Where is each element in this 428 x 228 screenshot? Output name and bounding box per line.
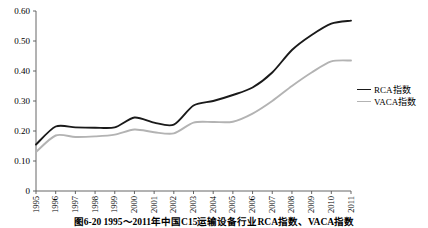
x-axis-label-1999: 1999: [110, 196, 119, 213]
figure-caption: 图6-20 1995～2011年中国C15运输设备行业RCA指数、VACA指数: [0, 214, 428, 228]
x-axis-label-2004: 2004: [209, 196, 218, 213]
x-axis-label-2007: 2007: [268, 196, 277, 213]
y-axis-label-4: 0.40: [0, 67, 30, 76]
y-axis-label-2: 0.20: [0, 127, 30, 136]
x-axis-label-2006: 2006: [248, 196, 257, 213]
y-axis-label-3: 0.30: [0, 97, 30, 106]
x-axis-label-2000: 2000: [130, 196, 139, 213]
figure-container: 00.100.200.300.400.500.60 19951996199719…: [0, 0, 428, 228]
legend-swatch-icon: [357, 89, 371, 90]
y-axis-label-1: 0.10: [0, 157, 30, 166]
x-axis-label-2005: 2005: [228, 196, 237, 213]
x-axis-label-1995: 1995: [32, 196, 41, 213]
x-axis-label-2009: 2009: [307, 196, 316, 213]
x-axis-label-1998: 1998: [91, 196, 100, 213]
legend-label: VACA指数: [374, 95, 416, 108]
x-axis-label-1997: 1997: [71, 196, 80, 213]
x-axis-label-2010: 2010: [327, 196, 336, 213]
x-axis-label-2003: 2003: [189, 196, 198, 213]
x-axis-label-2008: 2008: [287, 196, 296, 213]
y-axis-label-5: 0.50: [0, 37, 30, 46]
x-axis-label-1996: 1996: [51, 196, 60, 213]
axis-lines: [33, 11, 351, 194]
y-axis-label-0: 0: [0, 187, 30, 196]
legend-swatch-icon: [357, 101, 371, 102]
series-line-rca: [36, 21, 351, 145]
line-chart-plot: [0, 0, 428, 228]
x-axis-label-2002: 2002: [169, 196, 178, 213]
x-axis-label-2001: 2001: [150, 196, 159, 213]
data-series-layer: [36, 21, 351, 152]
legend-item-vaca[interactable]: VACA指数: [357, 95, 416, 108]
y-axis-label-6: 0.60: [0, 7, 30, 16]
x-axis-label-2011: 2011: [347, 196, 356, 213]
